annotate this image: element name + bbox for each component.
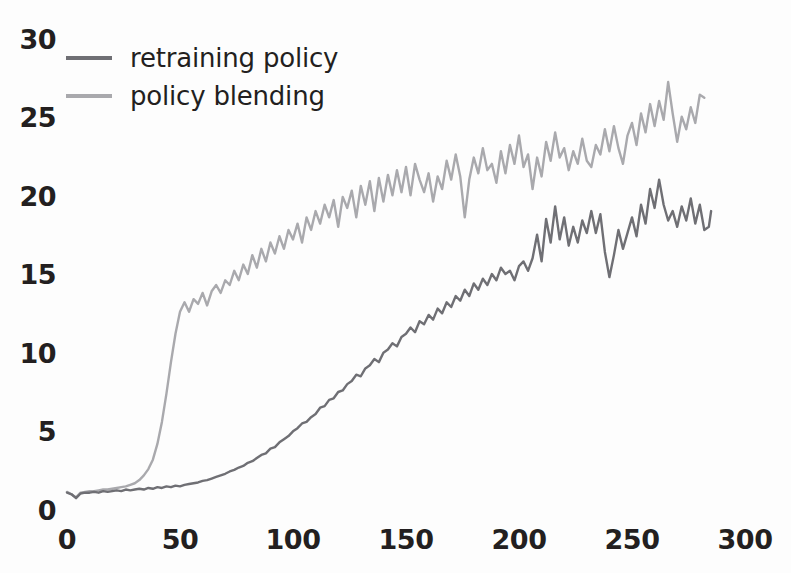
x-tick-label-200: 200 xyxy=(484,524,554,555)
series-paths xyxy=(67,82,711,498)
legend-item-policy-blending: policy blending xyxy=(66,80,338,112)
legend-swatch-retraining-policy xyxy=(66,56,112,60)
legend-label-policy-blending: policy blending xyxy=(130,81,325,111)
x-tick-label-100: 100 xyxy=(258,524,328,555)
y-tick-label-5: 5 xyxy=(0,416,56,447)
chart-legend: retraining policy policy blending xyxy=(66,42,338,112)
legend-item-retraining-policy: retraining policy xyxy=(66,42,338,74)
legend-swatch-policy-blending xyxy=(66,94,112,98)
y-tick-label-30: 30 xyxy=(0,24,56,55)
legend-label-retraining-policy: retraining policy xyxy=(130,43,338,73)
y-tick-label-20: 20 xyxy=(0,181,56,212)
x-tick-label-250: 250 xyxy=(597,524,667,555)
y-tick-label-0: 0 xyxy=(0,495,56,526)
chart-figure: 30 25 20 15 10 5 0 0 50 100 150 200 250 … xyxy=(0,0,791,573)
y-tick-label-25: 25 xyxy=(0,102,56,133)
x-tick-label-50: 50 xyxy=(145,524,215,555)
x-tick-label-150: 150 xyxy=(371,524,441,555)
x-tick-label-300: 300 xyxy=(710,524,780,555)
x-tick-label-0: 0 xyxy=(32,524,102,555)
y-tick-label-10: 10 xyxy=(0,338,56,369)
y-tick-label-15: 15 xyxy=(0,259,56,290)
series-line-retraining-policy xyxy=(67,180,711,499)
series-line-policy-blending xyxy=(67,82,704,497)
